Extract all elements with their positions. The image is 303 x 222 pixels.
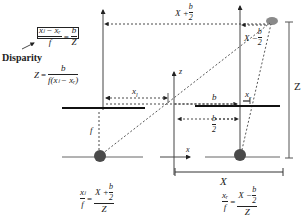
- b-text: b: [189, 3, 193, 11]
- x-minus-text: X −: [238, 191, 252, 200]
- left-camera-lens: [94, 150, 106, 162]
- b-text: b: [252, 186, 256, 194]
- two-text: 2: [252, 197, 256, 205]
- z-axis-label: z: [179, 68, 182, 76]
- lhs-numerator: xₗ: [80, 188, 85, 197]
- left-camera-equation: xₗ f = X + b 2 Z: [80, 183, 114, 214]
- right-camera-equation: xᵣ f = X − b 2 Z: [222, 186, 257, 217]
- b-label: b: [212, 93, 217, 102]
- disparity-denominator: f: [49, 38, 52, 47]
- right-camera-lens: [234, 149, 246, 161]
- lhs-denominator: f: [81, 200, 84, 209]
- depth-equation: Z = b f(xₗ − xᵣ): [34, 64, 78, 85]
- half-b-label: b 2: [212, 115, 216, 134]
- top-distance-label: X + b 2: [175, 3, 193, 22]
- x-axis-label: x: [186, 146, 190, 154]
- depth-numerator: b: [60, 64, 67, 73]
- x-plus-text: X +: [175, 8, 189, 18]
- rhs-denominator: Z: [72, 38, 77, 47]
- sub-text: l: [136, 92, 138, 98]
- depth-label: Z: [294, 81, 301, 92]
- depth-denominator: f(xₗ − xᵣ): [48, 76, 78, 85]
- disparity-equation: xₗ − xᵣ f = b Z: [38, 26, 77, 47]
- sub-text: r: [249, 95, 251, 101]
- right-distance-label: X − b 2: [244, 28, 262, 47]
- object-point: [266, 17, 278, 25]
- x-left-label: xl: [132, 87, 138, 98]
- rhs-denominator: Z: [245, 208, 250, 217]
- disparity-label: Disparity: [2, 52, 42, 63]
- lhs-denominator: f: [224, 203, 227, 212]
- two-text: 2: [189, 14, 193, 22]
- x-minus-text: X −: [244, 33, 258, 43]
- rhs-denominator: Z: [101, 205, 106, 214]
- disparity-numerator: xₗ − xᵣ: [38, 26, 62, 35]
- b-text: b: [258, 28, 262, 36]
- x-right-label: xr: [245, 90, 251, 101]
- b-text: b: [212, 115, 216, 123]
- two-text: 2: [109, 194, 113, 202]
- x-plus-text: X +: [95, 188, 109, 197]
- depth-lhs: Z: [34, 70, 39, 80]
- b-text: b: [109, 183, 113, 191]
- focal-length-label: f: [90, 126, 93, 135]
- rhs-numerator: b: [71, 26, 78, 35]
- two-text: 2: [258, 39, 262, 47]
- lhs-numerator: xᵣ: [222, 191, 228, 200]
- two-text: 2: [212, 126, 216, 134]
